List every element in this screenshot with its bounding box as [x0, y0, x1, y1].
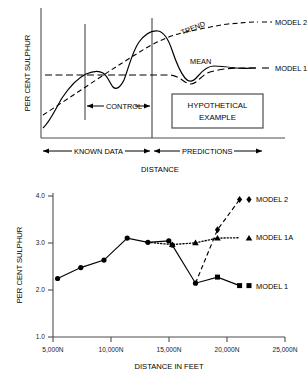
- legend-model2-label: MODEL 2: [256, 195, 288, 204]
- upper-model1-label: MODEL 1: [275, 64, 307, 73]
- upper-panel-chart: TREND MEAN MODEL 2 MODEL 1 CONTROL KNOWN…: [0, 0, 307, 185]
- legend-model1-label: MODEL 1: [256, 282, 288, 291]
- upper-y-axis-title: PER CENT SULPHUR: [23, 34, 32, 111]
- legend-model2: MODEL 2: [246, 195, 288, 204]
- lower-xtick-15000: 15,000N: [157, 346, 182, 353]
- lower-y-ticks: [48, 196, 53, 337]
- known-data-label: KNOWN DATA: [74, 147, 123, 156]
- lower-ytick-2: 2.0: [36, 286, 45, 293]
- known-data-series-line: [58, 238, 173, 278]
- lower-ytick-4: 4.0: [36, 192, 45, 199]
- legend-diamond-icon: [246, 196, 251, 203]
- figure-root: TREND MEAN MODEL 2 MODEL 1 CONTROL KNOWN…: [0, 0, 307, 388]
- lower-panel-chart: 4.0 3.0 2.0 1.0 5,000N 10,000N 15,000N 2…: [0, 185, 307, 388]
- lower-xtick-20000: 20,000N: [215, 346, 240, 353]
- hypothetical-example-box: [172, 94, 263, 128]
- legend-square-icon: [247, 283, 252, 288]
- control-label: CONTROL: [106, 102, 142, 111]
- model1-series-line: [172, 245, 239, 286]
- legend-model1a: MODEL 1A: [246, 233, 293, 242]
- legend-model1: MODEL 1: [247, 282, 289, 291]
- mean-label: MEAN: [190, 57, 211, 66]
- lower-y-axis-title: PER CENT SULPHUR: [15, 226, 24, 303]
- lower-xtick-5000: 5,000N: [42, 346, 64, 353]
- lower-ytick-3: 3.0: [36, 239, 45, 246]
- lower-x-axis-title: DISTANCE IN FEET: [134, 362, 203, 371]
- lower-xtick-10000: 10,000N: [99, 346, 124, 353]
- upper-x-axis-title: DISTANCE: [141, 165, 179, 174]
- upper-model2-label: MODEL 2: [275, 18, 307, 27]
- lower-xtick-25000: 25,000N: [273, 346, 298, 353]
- known-data-markers: [55, 236, 198, 286]
- lower-ytick-1: 1.0: [36, 333, 45, 340]
- predictions-label: PREDICTIONS: [182, 147, 233, 156]
- trend-label: TREND: [179, 19, 206, 37]
- lower-x-ticks: [53, 337, 285, 342]
- legend-model1a-label: MODEL 1A: [256, 233, 293, 242]
- hypothetical-example-line1: HYPOTHETICAL: [188, 101, 248, 110]
- upper-mean-model1-curve: [45, 68, 256, 84]
- legend-triangle-icon: [246, 235, 253, 241]
- hypothetical-example-line2: EXAMPLE: [199, 113, 236, 122]
